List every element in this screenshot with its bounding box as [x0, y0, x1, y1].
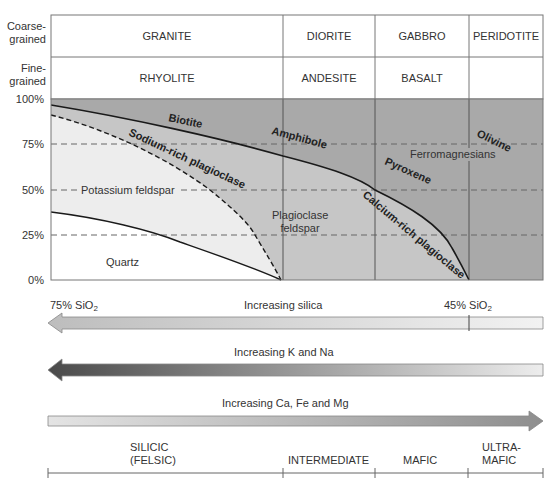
scale-ultramafic-line2: MAFIC [482, 454, 521, 467]
label-plagioclase-feldspar-1: Plagioclase [272, 209, 328, 222]
scale-silicic-line2: (FELSIC) [130, 454, 176, 467]
mineral-composition-diagram: Biotite Sodium-rich plagioclase Amphibol… [0, 0, 558, 491]
silica-arrow [48, 313, 543, 333]
label-potassium-feldspar: Potassium feldspar [78, 184, 178, 197]
silica-left-text: 75% SiO [50, 299, 93, 311]
scale-mafic: MAFIC [403, 454, 437, 467]
rock-table-grid [51, 15, 543, 99]
composition-scale-axis [48, 468, 543, 478]
scale-intermediate: INTERMEDIATE [288, 454, 369, 467]
scale-ultramafic: ULTRA- MAFIC [482, 441, 521, 467]
ca-fe-mg-arrow-label: Increasing Ca, Fe and Mg [222, 397, 349, 409]
scale-ultramafic-line1: ULTRA- [482, 441, 521, 454]
scale-silicic: SILICIC (FELSIC) [130, 441, 176, 467]
k-na-arrow [48, 359, 543, 381]
silica-left-label: 75% SiO2 [50, 299, 98, 313]
silica-left-subscript: 2 [93, 304, 97, 313]
label-ferromagnesians: Ferromagnesians [408, 148, 498, 161]
scale-silicic-line1: SILICIC [130, 441, 176, 454]
k-na-arrow-label: Increasing K and Na [234, 346, 334, 358]
label-plagioclase-feldspar-2: feldspar [272, 222, 328, 235]
silica-right-label: 45% SiO2 [444, 299, 492, 313]
silica-right-text: 45% SiO [444, 299, 487, 311]
silica-arrow-label: Increasing silica [244, 299, 322, 311]
label-quartz: Quartz [106, 256, 139, 269]
silica-right-subscript: 2 [487, 304, 491, 313]
ca-fe-mg-arrow [48, 411, 543, 431]
